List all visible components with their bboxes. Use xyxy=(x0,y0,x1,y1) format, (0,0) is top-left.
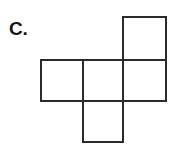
middle-center-square xyxy=(83,60,123,101)
middle-right-square xyxy=(123,60,166,101)
figure-container: C. xyxy=(0,0,173,150)
middle-left-square xyxy=(41,60,83,101)
cube-net-diagram xyxy=(0,0,173,150)
net-faces-group xyxy=(41,17,166,142)
top-right-square xyxy=(123,17,166,60)
bottom-center-square xyxy=(83,101,123,142)
